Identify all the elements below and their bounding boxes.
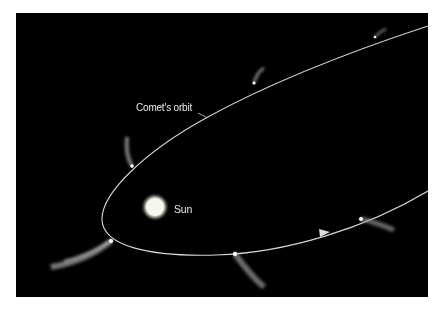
comet-position-2 [252, 81, 256, 85]
comet-position-5 [233, 252, 238, 257]
comet-position-4 [109, 239, 114, 244]
comet-position-1 [373, 35, 376, 38]
comet-position-3 [130, 164, 134, 168]
comet-position-6 [359, 217, 363, 221]
comet-orbit-path [102, 26, 428, 255]
orbit-illustration [16, 13, 428, 297]
sun-disk [146, 198, 164, 216]
orbit-label-leader-line [198, 113, 206, 117]
comet-orbit-diagram: Comet's orbit Sun [16, 13, 428, 297]
comet-tails [51, 29, 394, 287]
orbit-label: Comet's orbit [136, 103, 192, 113]
comet-heads [109, 35, 377, 256]
sun-label: Sun [174, 204, 192, 215]
